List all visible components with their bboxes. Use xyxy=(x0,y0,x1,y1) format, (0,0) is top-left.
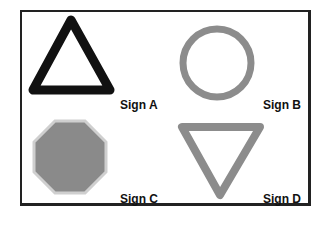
sign-b-circle-icon xyxy=(183,29,251,97)
sign-c-label: Sign C xyxy=(120,192,158,206)
sign-c-octagon-icon xyxy=(34,121,106,193)
sign-d-label: Sign D xyxy=(263,192,301,206)
sign-a-triangle-icon xyxy=(33,20,110,90)
sign-b-label: Sign B xyxy=(263,98,301,112)
sign-a-label: Sign A xyxy=(120,98,158,112)
sign-d-triangle-down-icon xyxy=(182,127,260,195)
